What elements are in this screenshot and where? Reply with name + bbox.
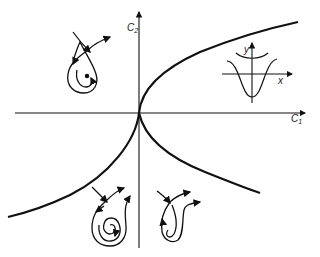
potential-inset (222, 43, 292, 103)
inset-x-label: x (277, 75, 284, 86)
c2-axis-label: C2 (127, 22, 138, 34)
cusp-diagram: C1 C2 y x (0, 0, 320, 257)
phase-portrait-lower-right (157, 191, 200, 242)
inset-y-label: y (243, 44, 250, 55)
phase-portrait-upper-left (68, 32, 110, 93)
diagram-svg: C1 C2 y x (0, 0, 320, 257)
c1-axis-label: C1 (291, 113, 302, 125)
cusp-curve (8, 22, 298, 217)
phase-portrait-lower-left (92, 187, 130, 246)
